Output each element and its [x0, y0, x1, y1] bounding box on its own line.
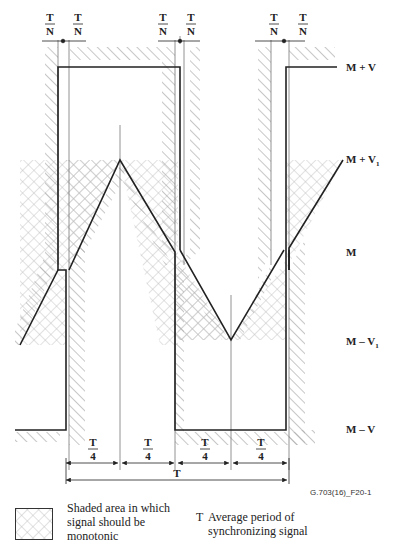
legend-swatch-crosshatch: [15, 508, 53, 540]
level-label-m-plus-v: M + V: [346, 61, 376, 73]
svg-text:T: T: [159, 11, 167, 23]
legend-t-symbol: T: [196, 510, 208, 524]
level-label-m: M: [346, 246, 357, 258]
svg-text:N: N: [159, 25, 167, 37]
svg-text:N: N: [299, 25, 307, 37]
svg-text:T: T: [270, 11, 278, 23]
legend-t-line1: Average period of: [208, 510, 308, 524]
period-label: T: [173, 467, 181, 479]
svg-text:T: T: [74, 11, 82, 23]
tn-label-6: T N: [298, 11, 308, 37]
tn-label-1: T N: [45, 11, 55, 37]
legend-t-line2: synchronizing signal: [208, 524, 308, 538]
svg-text:T: T: [201, 436, 209, 448]
timing-diagram: T N T N T N T N T N T N M + V M + V1 M M…: [0, 0, 397, 500]
quarter-label-4: T 4: [256, 436, 266, 462]
svg-text:T: T: [144, 436, 152, 448]
svg-text:N: N: [74, 25, 82, 37]
figure-id: G.703(16)_F20-1: [310, 488, 372, 497]
legend-t-description: TAverage period ofsynchronizing signal: [196, 510, 376, 538]
quarter-label-1: T 4: [88, 436, 98, 462]
svg-text:T: T: [46, 11, 54, 23]
tn-label-5: T N: [269, 11, 279, 37]
svg-text:4: 4: [90, 450, 96, 462]
legend-shaded-line2: signal should be: [67, 515, 187, 529]
level-label-m-minus-v1: M – V1: [346, 335, 379, 350]
svg-text:T: T: [187, 11, 195, 23]
quarter-label-3: T 4: [200, 436, 210, 462]
svg-text:4: 4: [258, 450, 264, 462]
legend-shaded-line1: Shaded area in which: [67, 501, 187, 515]
tn-label-3: T N: [158, 11, 168, 37]
level-label-m-minus-v: M – V: [346, 423, 375, 435]
legend-shaded-line3: monotonic: [67, 529, 187, 543]
svg-text:N: N: [46, 25, 54, 37]
svg-text:T: T: [299, 11, 307, 23]
svg-text:T: T: [257, 436, 265, 448]
quarter-label-2: T 4: [143, 436, 153, 462]
level-label-m-plus-v1: M + V1: [346, 153, 380, 168]
svg-text:4: 4: [202, 450, 208, 462]
legend-shaded-description: Shaded area in which signal should be mo…: [67, 501, 187, 543]
svg-text:N: N: [270, 25, 278, 37]
svg-text:N: N: [187, 25, 195, 37]
tn-label-2: T N: [73, 11, 83, 37]
svg-text:T: T: [89, 436, 97, 448]
tolerance-markers: [42, 39, 305, 43]
tn-label-4: T N: [186, 11, 196, 37]
svg-text:4: 4: [145, 450, 151, 462]
